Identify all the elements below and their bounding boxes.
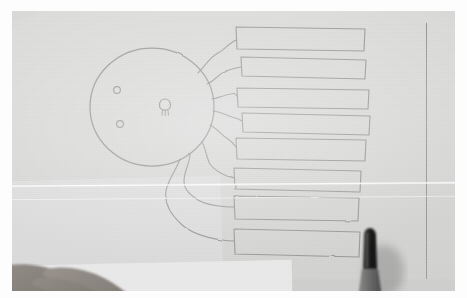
connector-4 bbox=[213, 111, 242, 121]
pen-cap bbox=[363, 228, 377, 269]
pen-body bbox=[358, 269, 382, 291]
box-6 bbox=[234, 168, 361, 192]
box-1 bbox=[236, 27, 365, 51]
hand bbox=[12, 205, 232, 291]
connector-3 bbox=[212, 93, 237, 99]
connector-6 bbox=[202, 142, 234, 178]
balloon-glyph bbox=[160, 99, 171, 116]
circle-marks bbox=[114, 87, 171, 128]
box-4 bbox=[242, 113, 370, 135]
box-7 bbox=[234, 196, 359, 221]
box-3 bbox=[237, 88, 369, 109]
connector-1 bbox=[198, 40, 236, 73]
photograph bbox=[12, 11, 455, 291]
connector-2 bbox=[207, 67, 241, 84]
box-8 bbox=[234, 229, 360, 257]
photo-frame: Hand-drawn mind-map sketch on paper Over… bbox=[0, 0, 467, 298]
small-circle-lower bbox=[117, 121, 124, 128]
marker-pen bbox=[350, 225, 408, 291]
box-5 bbox=[236, 138, 366, 161]
rectangle-group bbox=[234, 27, 370, 257]
connector-5 bbox=[210, 125, 236, 147]
box-2 bbox=[241, 57, 366, 79]
small-circle-upper bbox=[114, 87, 121, 94]
head-circle bbox=[90, 48, 214, 166]
